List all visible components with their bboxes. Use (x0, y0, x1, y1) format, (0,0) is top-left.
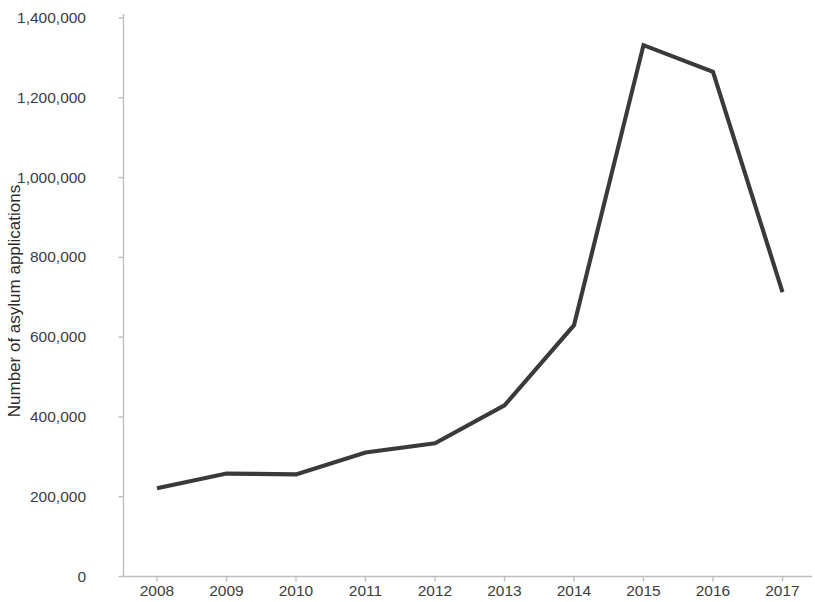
x-axis-ticks (157, 577, 783, 582)
y-axis-ticks (119, 18, 124, 577)
axis-lines (124, 14, 813, 577)
data-series-line (157, 45, 783, 488)
plot-area (0, 0, 815, 602)
line-chart: Number of asylum applications 0200,00040… (0, 0, 815, 602)
